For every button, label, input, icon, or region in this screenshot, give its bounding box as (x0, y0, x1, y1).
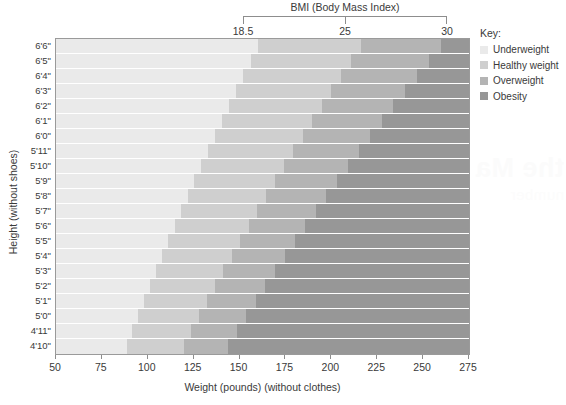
legend-swatch-icon (480, 61, 488, 69)
y-axis-tick-label: 5'5" (35, 236, 51, 246)
band-segment-overweight (257, 204, 316, 218)
y-axis-tick-label: 5'2" (35, 281, 51, 291)
bmi-band-row (56, 339, 469, 354)
y-axis-tick-label: 5'10" (30, 161, 51, 171)
y-axis-title: Height (without shoes) (7, 137, 19, 267)
band-segment-healthy-weight (194, 174, 275, 188)
x-axis-tick-label: 75 (95, 361, 107, 373)
band-segment-healthy-weight (168, 234, 240, 248)
bmi-band-row (56, 189, 469, 204)
y-axis-tick-label: 6'6" (35, 41, 51, 51)
x-axis-tick (330, 355, 331, 359)
band-segment-healthy-weight (251, 54, 352, 68)
band-segment-healthy-weight (138, 309, 200, 323)
band-segment-overweight (341, 69, 417, 83)
band-segment-underweight (56, 54, 251, 68)
band-segment-overweight (249, 219, 306, 233)
legend-item: Overweight (480, 75, 566, 86)
band-segment-obesity (326, 189, 469, 203)
legend-item-label: Overweight (493, 75, 544, 86)
bmi-band-row (56, 264, 469, 279)
bmi-band-row (56, 84, 469, 99)
band-segment-obesity (285, 249, 470, 263)
bmi-axis-bracket (243, 16, 447, 24)
bmi-axis-bracket-middle-tick (345, 16, 346, 24)
x-axis-tick (376, 355, 377, 359)
band-segment-obesity (237, 324, 470, 338)
y-axis-tick-label: 6'2" (35, 101, 51, 111)
bmi-band-row (56, 324, 469, 339)
band-segment-overweight (275, 174, 338, 188)
y-axis-tick-label: 5'0" (35, 311, 51, 321)
band-segment-underweight (56, 69, 244, 83)
band-segment-underweight (56, 204, 182, 218)
band-segment-obesity (305, 219, 469, 233)
y-axis-tick-label: 5'9" (35, 176, 51, 186)
band-segment-healthy-weight (208, 144, 294, 158)
x-axis-tick-label: 150 (230, 361, 248, 373)
band-segment-obesity (393, 99, 469, 113)
legend-item-label: Healthy weight (493, 60, 559, 71)
band-segment-overweight (284, 159, 349, 173)
band-segment-obesity (382, 114, 470, 128)
bmi-band-row (56, 114, 469, 129)
band-segment-obesity (246, 309, 469, 323)
band-segment-overweight (361, 39, 441, 53)
bmi-band-row (56, 174, 469, 189)
watermark-line-1: the Ma (468, 152, 564, 186)
x-axis-tick (55, 355, 56, 359)
y-axis-tick-label: 6'0" (35, 131, 51, 141)
band-segment-obesity (228, 339, 470, 354)
legend-swatch-icon (480, 77, 488, 85)
x-axis-title: Weight (pounds) (without clothes) (55, 381, 470, 393)
y-axis-tick-label: 4'11" (31, 326, 51, 336)
band-segment-obesity (417, 69, 470, 83)
band-segment-underweight (56, 234, 169, 248)
band-segment-obesity (275, 264, 469, 278)
bleedthrough-watermark: the Ma number (468, 152, 564, 232)
bmi-chart-page: the Ma number BMI (Body Mass Index) 18.5… (0, 0, 566, 405)
x-axis-tick (147, 355, 148, 359)
band-segment-healthy-weight (144, 294, 208, 308)
band-segment-healthy-weight (132, 324, 192, 338)
legend-swatch-icon (480, 92, 488, 100)
bmi-band-row (56, 39, 469, 54)
x-axis-tick (193, 355, 194, 359)
band-segment-healthy-weight (181, 204, 258, 218)
band-segment-obesity (265, 279, 469, 293)
band-segment-underweight (56, 189, 188, 203)
bmi-band-row (56, 309, 469, 324)
x-axis-tick-label: 225 (367, 361, 385, 373)
bmi-band-row (56, 99, 469, 114)
band-segment-underweight (56, 264, 157, 278)
y-axis-tick-label: 5'3" (35, 266, 51, 276)
band-segment-healthy-weight (229, 99, 323, 113)
bmi-band-row (56, 204, 469, 219)
band-segment-obesity (370, 129, 469, 143)
band-segment-healthy-weight (175, 219, 250, 233)
bmi-band-row (56, 249, 469, 264)
band-segment-obesity (359, 144, 470, 158)
band-segment-healthy-weight (258, 39, 362, 53)
legend-title: Key: (480, 27, 566, 39)
watermark-line-2: number (468, 186, 564, 205)
legend-swatch-icon (480, 46, 488, 54)
band-segment-underweight (56, 309, 139, 323)
x-axis-tick-label: 275 (459, 361, 477, 373)
y-axis-tick-label: 5'4" (35, 251, 51, 261)
x-axis-tick-labels: 5075100125150175200225250275 (55, 361, 470, 377)
band-segment-overweight (266, 189, 327, 203)
band-segment-obesity (295, 234, 469, 248)
band-segment-overweight (199, 309, 247, 323)
legend-item: Underweight (480, 44, 566, 55)
x-axis-tick (468, 355, 469, 359)
bmi-band-row (56, 144, 469, 159)
band-segment-healthy-weight (127, 339, 185, 354)
bmi-tick-label-30: 30 (441, 25, 453, 37)
x-axis-tick (422, 355, 423, 359)
band-segment-overweight (322, 99, 394, 113)
bmi-band-row (56, 69, 469, 84)
band-segment-healthy-weight (222, 114, 313, 128)
y-axis-tick-label: 5'11" (31, 146, 51, 156)
x-axis-tick-label: 100 (138, 361, 156, 373)
